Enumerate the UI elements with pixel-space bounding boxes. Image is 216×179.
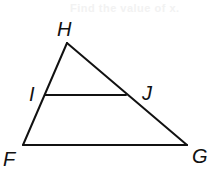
label-h: H [57,18,72,40]
triangle-figure: H I J F G [0,0,216,179]
label-j: J [141,82,153,104]
label-i: I [29,83,35,105]
label-f: F [3,148,17,170]
label-g: G [192,145,208,167]
